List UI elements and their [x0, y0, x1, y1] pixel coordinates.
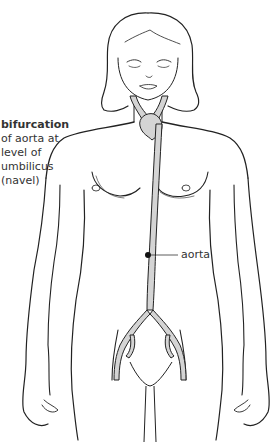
bifurcation-label-line: of aorta at [1, 132, 81, 146]
aorta-marker-dot [145, 252, 151, 258]
lower-body-outline [130, 362, 172, 442]
hair-right [148, 13, 199, 111]
bifurcation-label-title: bifurcation [1, 118, 81, 132]
bifurcation-label-line: level of [1, 146, 81, 160]
body-outline-illustration [0, 0, 279, 442]
aorta-label: aorta [181, 248, 210, 262]
aorta-vessel [114, 96, 186, 380]
anatomy-diagram: bifurcation of aorta at level of umbilic… [0, 0, 279, 442]
bifurcation-label: bifurcation of aorta at level of umbilic… [1, 118, 81, 188]
bifurcation-label-line: (navel) [1, 174, 81, 188]
bifurcation-label-line: umbilicus [1, 160, 81, 174]
